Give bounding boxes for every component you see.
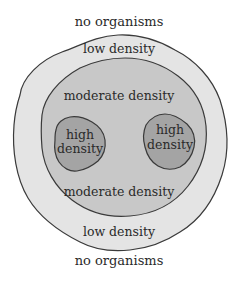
label-no-organisms-bottom: no organisms <box>0 254 238 267</box>
label-moderate-density-top: moderate density <box>0 90 238 103</box>
label-no-organisms-top: no organisms <box>0 15 238 28</box>
label-high-right-line2: density <box>146 139 194 152</box>
label-low-density-top: low density <box>0 43 238 56</box>
label-moderate-density-bottom: moderate density <box>0 186 238 199</box>
density-diagram: no organisms low density moderate densit… <box>0 0 238 281</box>
label-low-density-bottom: low density <box>0 226 238 239</box>
label-high-right-line1: high <box>146 124 194 137</box>
label-high-left-line1: high <box>56 129 104 142</box>
label-high-left-line2: density <box>56 143 104 156</box>
